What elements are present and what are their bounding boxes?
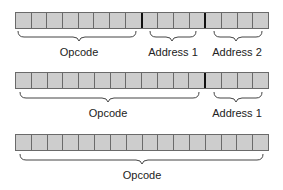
bit-cell (237, 135, 253, 150)
bit-cell (206, 73, 222, 88)
bit-cell (32, 13, 48, 28)
bit-cell (174, 135, 190, 150)
format-row-3 (15, 134, 269, 151)
bit-cell (47, 13, 63, 28)
format-row-2 (15, 72, 269, 89)
bit-cell (111, 135, 127, 150)
bit-cell (158, 73, 174, 88)
bit-cell (253, 73, 268, 88)
opcode-brace-icon (20, 92, 199, 102)
opcode-label: Opcode (60, 46, 99, 58)
bit-cell (16, 135, 32, 150)
bit-cell (79, 73, 95, 88)
bit-cell (190, 13, 207, 28)
address1-label: Address 1 (148, 46, 198, 58)
address1-label: Address 1 (212, 107, 262, 119)
bit-cell (95, 73, 111, 88)
bit-cell (143, 135, 159, 150)
bit-cell (126, 73, 142, 88)
bit-cell (253, 135, 268, 150)
bit-cell (206, 13, 222, 28)
bit-cell (48, 135, 64, 150)
bit-cell (95, 135, 111, 150)
opcode-label: Opcode (89, 107, 128, 119)
bit-cell (189, 73, 206, 88)
bit-cell (174, 13, 190, 28)
bit-cell (238, 73, 254, 88)
bit-cell (16, 73, 32, 88)
opcode-label: Opcode (123, 169, 162, 181)
bit-cell (206, 135, 222, 150)
bit-cell (94, 13, 110, 28)
bit-cell (222, 73, 238, 88)
bit-cell (158, 135, 174, 150)
bit-cell (63, 73, 79, 88)
bit-cell (48, 73, 64, 88)
opcode-brace-icon (18, 31, 136, 41)
bit-cell (190, 135, 206, 150)
bit-cell (142, 73, 158, 88)
bit-cell (111, 73, 127, 88)
bit-cell (16, 13, 32, 28)
bit-cell (222, 135, 238, 150)
bit-cell (126, 13, 143, 28)
bit-cell (174, 73, 190, 88)
opcode-brace-icon (20, 154, 263, 164)
address1-brace-icon (150, 31, 196, 41)
brace-row-2 (0, 91, 283, 105)
bit-cell (63, 13, 79, 28)
format-row-1 (15, 12, 269, 29)
bit-cell (32, 73, 48, 88)
bit-cell (143, 13, 159, 28)
address1-brace-icon (214, 92, 262, 102)
bit-cell (63, 135, 79, 150)
address2-label: Address 2 (212, 46, 262, 58)
bit-cell (79, 135, 95, 150)
brace-row-3 (0, 153, 283, 167)
bit-cell (79, 13, 95, 28)
bit-cell (158, 13, 174, 28)
bit-cell (110, 13, 126, 28)
bit-cell (32, 135, 48, 150)
bit-cell (127, 135, 143, 150)
brace-row-1 (0, 30, 283, 44)
bit-cell (253, 13, 268, 28)
bit-cell (238, 13, 254, 28)
bit-cell (222, 13, 238, 28)
address2-brace-icon (214, 31, 262, 41)
